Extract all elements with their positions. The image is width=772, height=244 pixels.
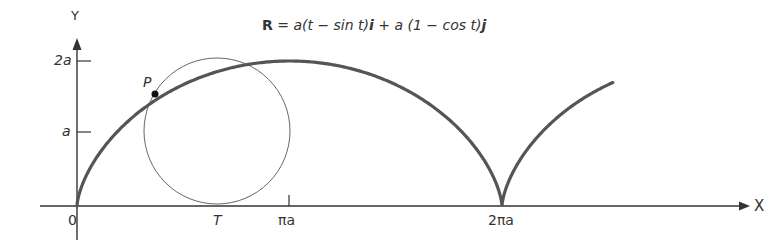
x-tick-label-pi-a: πa bbox=[278, 212, 295, 228]
y-axis-arrow-icon bbox=[73, 38, 82, 50]
y-tick-label-a: a bbox=[62, 123, 71, 139]
x-axis-label: X bbox=[754, 197, 764, 215]
cycloid-curve bbox=[77, 61, 613, 206]
y-tick-label-2a: 2a bbox=[54, 52, 72, 68]
x-axis-arrow-icon bbox=[739, 202, 750, 211]
equation-y-part: + a (1 − cos t) bbox=[374, 17, 482, 33]
cycloid-diagram bbox=[0, 0, 772, 244]
x-tick-label-2pi-a: 2πa bbox=[488, 212, 514, 228]
equation-x-part: = a(t − sin t) bbox=[273, 17, 369, 33]
point-t-label: T bbox=[213, 212, 222, 228]
origin-label: 0 bbox=[68, 212, 77, 228]
cycloid-equation: R = a(t − sin t)i + a (1 − cos t)j bbox=[262, 17, 486, 33]
rolling-circle bbox=[144, 58, 290, 204]
point-p-label: P bbox=[143, 74, 151, 90]
y-axis-label: Y bbox=[71, 8, 79, 23]
equation-lhs: R bbox=[262, 17, 273, 33]
equation-j: j bbox=[481, 17, 486, 33]
point-p-dot bbox=[152, 91, 159, 98]
